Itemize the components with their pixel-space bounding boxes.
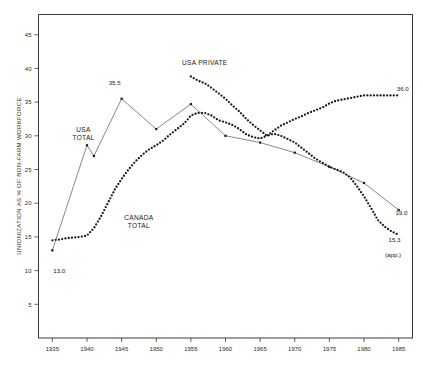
series-dot [180, 125, 182, 127]
series-dot [235, 108, 237, 110]
series-dot [328, 103, 330, 105]
series-dot [245, 133, 247, 135]
series-dot [182, 123, 184, 125]
series-dot [331, 101, 333, 103]
series-dot [225, 121, 227, 123]
series-dot [213, 88, 215, 90]
series-dot [164, 138, 166, 140]
series-dot [393, 94, 395, 96]
series-dot [298, 116, 300, 118]
series-marker [155, 128, 157, 130]
series-dot [333, 168, 335, 170]
series-dot [233, 105, 235, 107]
series-dot [277, 134, 279, 136]
series-dot [191, 114, 193, 116]
usa-total-1985-value: 19.0 [395, 209, 408, 216]
series-dot [98, 218, 100, 220]
series-dot [257, 137, 259, 139]
series-dot [133, 162, 135, 164]
series-dot [340, 99, 342, 101]
series-dot [280, 135, 282, 137]
y-tick-label: 35 [25, 99, 32, 105]
series-dot [393, 231, 395, 233]
series-dot [336, 169, 338, 171]
series-dot [370, 94, 372, 96]
series-dot [109, 197, 111, 199]
series-dot [372, 211, 374, 213]
x-tick-label: 1975 [323, 346, 337, 352]
series-dot [286, 122, 288, 124]
series-dot [127, 169, 129, 171]
y-tick-label: 30 [25, 133, 32, 139]
series-dot [222, 120, 224, 122]
series-dot [114, 188, 116, 190]
series-dot [220, 94, 222, 96]
series-dot [204, 83, 206, 85]
series-dot [247, 119, 249, 121]
series-dot [283, 136, 285, 138]
series-dot [295, 142, 297, 144]
series-dot [387, 228, 389, 230]
series-dot [322, 162, 324, 164]
series-dot [234, 125, 236, 127]
series-dot [100, 215, 102, 217]
series-dot [347, 97, 349, 99]
canada-total-1985-value: 36.0 [397, 85, 410, 92]
usa-private-approx-note: (app.) [385, 251, 401, 258]
series-dot [300, 147, 302, 149]
series-dot [84, 235, 86, 237]
series-dot [115, 186, 117, 188]
series-dot [151, 147, 153, 149]
series-dot [210, 114, 212, 116]
y-tick-label: 25 [25, 167, 32, 173]
series-dot [238, 110, 240, 112]
series-dot [105, 206, 107, 208]
series-dot [254, 136, 256, 138]
series-dot [244, 117, 246, 119]
series-dot [330, 166, 332, 168]
series-dot [172, 131, 174, 133]
series-dot [198, 80, 200, 82]
series-dot [337, 99, 339, 101]
series-marker [121, 98, 123, 100]
series-dot [358, 188, 360, 190]
series-dot [307, 112, 309, 114]
series-dot [91, 229, 93, 231]
usa-total-1945-value: 35.5 [109, 79, 122, 86]
series-dot [103, 209, 105, 211]
series-dot [280, 125, 282, 127]
series-dot [316, 158, 318, 160]
series-dot [292, 141, 294, 143]
series-dot [162, 140, 164, 142]
series-dot [121, 177, 123, 179]
series-dot [303, 149, 305, 151]
series-dot [74, 236, 76, 238]
series-dot [350, 97, 352, 99]
series-marker [93, 155, 95, 157]
series-dot [356, 186, 358, 188]
series-dot [159, 141, 161, 143]
y-tick-label: 10 [25, 268, 32, 274]
series-dot [305, 151, 307, 153]
x-tick-label: 1960 [219, 346, 233, 352]
series-dot [169, 133, 171, 135]
series-dot [252, 124, 254, 126]
series-dot [390, 230, 392, 232]
series-dot [216, 118, 218, 120]
series-dot [274, 128, 276, 130]
series-marker [190, 103, 192, 105]
x-tick-label: 1980 [357, 346, 371, 352]
series-dot [295, 117, 297, 119]
series-dot [174, 129, 176, 131]
series-dot [298, 144, 300, 146]
series-dot [231, 124, 233, 126]
x-tick-label: 1935 [46, 346, 60, 352]
series-dot [316, 108, 318, 110]
series-dot [356, 95, 358, 97]
series-dot [265, 134, 267, 136]
series-marker [294, 152, 296, 154]
series-dot [240, 112, 242, 114]
series-dot [348, 175, 350, 177]
series-dot [327, 165, 329, 167]
series-dot [374, 214, 376, 216]
